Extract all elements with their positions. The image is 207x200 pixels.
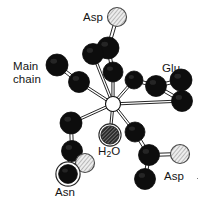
atom-asn_1 bbox=[60, 112, 82, 134]
water-o: O bbox=[111, 145, 120, 157]
carbon-atom bbox=[125, 122, 145, 142]
water-atom bbox=[101, 126, 119, 144]
atom-aspT_b bbox=[83, 44, 104, 65]
figure-canvas: Asp Main chain Glu H2O Asn Asp bbox=[0, 0, 207, 200]
atom-highlight bbox=[129, 126, 135, 130]
oxygen-atom bbox=[171, 145, 190, 164]
atom-highlight bbox=[139, 173, 145, 178]
atom-highlight bbox=[176, 95, 182, 100]
atom-glu_2 bbox=[146, 76, 167, 97]
atom-highlight bbox=[73, 76, 79, 81]
carbon-atom bbox=[103, 62, 123, 82]
atom-highlight bbox=[101, 42, 108, 47]
label-water: H2O bbox=[98, 145, 120, 160]
scan-speck bbox=[197, 178, 198, 179]
atom-aspB_3 bbox=[135, 169, 156, 190]
carbon-atom bbox=[69, 72, 90, 93]
atom-aspB_1 bbox=[125, 122, 145, 142]
carbon-atom bbox=[83, 44, 104, 65]
atom-highlight bbox=[107, 66, 113, 70]
atom-highlight bbox=[174, 74, 181, 79]
atom-highlight bbox=[150, 80, 156, 85]
atom-mc_1 bbox=[46, 54, 68, 76]
oxygen-atom bbox=[108, 8, 127, 27]
carbon-atom bbox=[46, 54, 68, 76]
label-glu: Glu bbox=[162, 62, 180, 75]
carbon-atom bbox=[146, 76, 167, 97]
atom-aspT_o bbox=[108, 8, 127, 27]
carbon-atom bbox=[60, 112, 82, 134]
label-asn: Asn bbox=[55, 186, 75, 199]
atom-glu_4 bbox=[172, 91, 193, 112]
carbon-atom bbox=[139, 145, 160, 166]
atom-wat_o bbox=[99, 124, 121, 146]
atom-highlight bbox=[62, 169, 68, 173]
carbon-atom bbox=[135, 169, 156, 190]
label-main-chain: Main chain bbox=[13, 60, 41, 85]
atom-metal bbox=[106, 97, 121, 112]
atom-highlight bbox=[50, 59, 57, 64]
atom-asn_n bbox=[56, 162, 80, 186]
atom-highlight bbox=[143, 149, 149, 154]
metal-ion bbox=[106, 97, 121, 112]
atom-highlight bbox=[129, 75, 134, 79]
atom-mc_2 bbox=[69, 72, 90, 93]
atom-glu_1 bbox=[125, 71, 143, 89]
label-asp-bottom: Asp bbox=[164, 170, 184, 183]
atom-aspB_2 bbox=[139, 145, 160, 166]
atom-aspT_g bbox=[103, 62, 123, 82]
label-asp-top: Asp bbox=[83, 11, 103, 24]
carbon-atom bbox=[125, 71, 143, 89]
atom-highlight bbox=[87, 48, 93, 53]
nitrogen-atom bbox=[59, 165, 78, 184]
atom-aspB_o bbox=[171, 145, 190, 164]
carbon-atom bbox=[172, 91, 193, 112]
atom-highlight bbox=[64, 117, 71, 122]
atom-highlight bbox=[66, 145, 72, 150]
